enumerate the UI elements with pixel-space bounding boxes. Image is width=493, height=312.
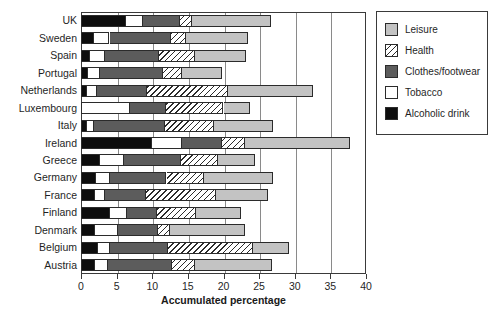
bar-segment-leisure (192, 15, 270, 27)
bar-segment-clothes-footwear (110, 32, 172, 44)
bar-segment-alcoholic-drink (81, 32, 94, 44)
bar-segment-health (168, 242, 253, 254)
bar-segment-clothes-footwear (124, 154, 182, 166)
bar-segment-alcoholic-drink (81, 242, 98, 254)
legend-label: Leisure (405, 24, 438, 35)
bar-segment-leisure (186, 32, 247, 44)
x-tick-label-35: 35 (325, 280, 337, 292)
bar-segment-health (159, 50, 195, 62)
x-tick-30 (295, 274, 296, 279)
x-tick-label-5: 5 (114, 280, 120, 292)
y-axis-label-luxembourg: Luxembourg (0, 103, 77, 114)
x-tick-label-15: 15 (182, 280, 194, 292)
bar-segment-tobacco (87, 85, 97, 97)
legend-swatch-clothes-footwear (385, 65, 398, 78)
bar-segment-leisure (216, 189, 269, 201)
bar-segment-alcoholic-drink (81, 259, 95, 271)
bar-segment-clothes-footwear (127, 207, 156, 219)
bar-segment-leisure (170, 224, 245, 236)
bar-segment-leisure (195, 50, 246, 62)
bar-segment-tobacco (87, 120, 94, 132)
y-axis-label-austria: Austria (0, 260, 77, 271)
bar-segment-leisure (218, 154, 255, 166)
y-axis-label-italy: Italy (0, 120, 77, 131)
bar-segment-leisure (195, 259, 272, 271)
x-tick-40 (366, 274, 367, 279)
bar-segment-clothes-footwear (110, 172, 166, 184)
legend-item-alcoholic-drink: Alcoholic drink (385, 106, 469, 120)
x-tick-0 (81, 274, 82, 279)
bar-segment-alcoholic-drink (81, 67, 88, 79)
legend-item-health: Health (385, 43, 434, 57)
bar-segment-health (166, 102, 224, 114)
x-tick-35 (330, 274, 331, 279)
bar-segment-clothes-footwear (108, 259, 172, 271)
legend-swatch-alcoholic-drink (385, 107, 398, 120)
bar-segment-health (167, 172, 205, 184)
bar-segment-alcoholic-drink (81, 224, 95, 236)
legend-label: Clothes/footwear (405, 66, 480, 77)
bar-segment-health (163, 67, 182, 79)
bar-segment-tobacco (90, 50, 104, 62)
y-axis-label-ireland: Ireland (0, 138, 77, 149)
bar-segment-clothes-footwear (143, 15, 180, 27)
bar-segment-clothes-footwear (182, 137, 222, 149)
bar-segment-tobacco (95, 189, 104, 201)
bar-segment-leisure (196, 207, 240, 219)
bar-segment-health (147, 85, 228, 97)
y-axis-label-finland: Finland (0, 207, 77, 218)
bar-segment-leisure (245, 137, 350, 149)
legend-item-leisure: Leisure (385, 22, 438, 36)
bar-segment-alcoholic-drink (81, 137, 152, 149)
bar-segment-tobacco (88, 67, 100, 79)
bar-segment-leisure (224, 102, 250, 114)
x-tick-label-30: 30 (289, 280, 301, 292)
bar-segment-alcoholic-drink (81, 15, 126, 27)
legend-label: Tobacco (405, 87, 442, 98)
bar-segment-alcoholic-drink (81, 154, 100, 166)
legend-item-clothes-footwear: Clothes/footwear (385, 64, 480, 78)
y-axis-label-spain: Spain (0, 50, 77, 61)
bar-segment-tobacco (98, 242, 110, 254)
bar-segment-health (158, 224, 170, 236)
y-axis-category-labels: UKSwedenSpainPortugalNetherlandsLuxembou… (0, 12, 77, 274)
bar-segment-alcoholic-drink (81, 189, 95, 201)
x-tick-25 (259, 274, 260, 279)
chart-legend: LeisureHealthClothes/footwearTobaccoAlco… (376, 11, 488, 135)
bars-layer (81, 12, 366, 274)
bar-segment-leisure (204, 172, 273, 184)
stacked-bar-chart: UKSwedenSpainPortugalNetherlandsLuxembou… (0, 0, 493, 312)
bar-segment-tobacco (126, 15, 143, 27)
y-axis-label-denmark: Denmark (0, 225, 77, 236)
bar-segment-health (172, 259, 195, 271)
bar-segment-health (181, 154, 217, 166)
x-tick-label-0: 0 (78, 280, 84, 292)
bar-segment-tobacco (95, 259, 108, 271)
x-tick-5 (117, 274, 118, 279)
x-tick-15 (188, 274, 189, 279)
bar-segment-tobacco (82, 102, 130, 114)
y-axis-label-sweden: Sweden (0, 33, 77, 44)
bar-segment-leisure (214, 120, 273, 132)
legend-label: Health (405, 45, 434, 56)
bar-segment-health (180, 15, 192, 27)
bar-segment-alcoholic-drink (81, 172, 96, 184)
bar-segment-clothes-footwear (105, 50, 159, 62)
bar-segment-clothes-footwear (100, 67, 163, 79)
y-axis-label-germany: Germany (0, 172, 77, 183)
legend-swatch-tobacco (385, 86, 398, 99)
bar-segment-tobacco (95, 224, 118, 236)
bar-segment-health (171, 32, 186, 44)
legend-swatch-health (385, 44, 398, 57)
y-axis-label-france: France (0, 190, 77, 201)
bar-segment-health (165, 120, 214, 132)
x-tick-20 (224, 274, 225, 279)
y-axis-label-belgium: Belgium (0, 242, 77, 253)
bar-segment-leisure (182, 67, 222, 79)
x-tick-10 (152, 274, 153, 279)
bar-segment-alcoholic-drink (81, 50, 90, 62)
x-tick-label-10: 10 (146, 280, 158, 292)
bar-segment-leisure (253, 242, 289, 254)
bar-segment-tobacco (94, 32, 110, 44)
y-axis-label-portugal: Portugal (0, 68, 77, 79)
